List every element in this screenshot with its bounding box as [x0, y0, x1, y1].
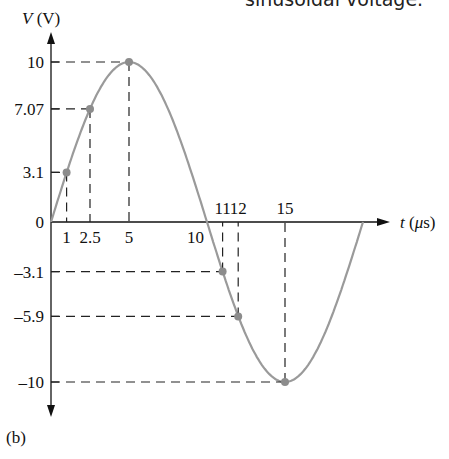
x-axis-arrow-icon [377, 218, 390, 226]
x-tick-label: 12 [230, 199, 247, 218]
x-tick-label: 5 [125, 228, 134, 247]
y-tick-label: –5.9 [13, 307, 44, 326]
y-tick-label: 7.07 [14, 100, 44, 119]
y-tick-label: –3.1 [13, 263, 44, 282]
x-axis-label: t (μs) [400, 213, 435, 232]
data-point-marker [219, 268, 227, 276]
y-tick-label: –10 [18, 373, 45, 392]
y-tick-label: 0 [36, 213, 45, 232]
x-tick-label: 1 [62, 228, 71, 247]
y-axis-arrow-up-icon [47, 32, 55, 44]
x-tick-label: 11 [214, 199, 230, 218]
data-point-marker [86, 105, 94, 113]
y-tick-label: 3.1 [23, 163, 44, 182]
x-tick-label: 10 [187, 228, 204, 247]
y-axis-arrow-down-icon [47, 405, 55, 417]
y-tick-label: 10 [27, 53, 44, 72]
x-tick-label: 2.5 [79, 228, 100, 247]
sine-chart: V (V)t (μs)107.073.10–3.1–5.9–1012.55101… [0, 0, 449, 459]
panel-label: (b) [6, 428, 26, 448]
data-point-marker [125, 58, 133, 66]
y-axis-label: V (V) [22, 9, 60, 28]
data-point-marker [281, 378, 289, 386]
data-point-marker [234, 312, 242, 320]
data-point-marker [63, 168, 71, 176]
x-tick-label: 15 [277, 199, 294, 218]
